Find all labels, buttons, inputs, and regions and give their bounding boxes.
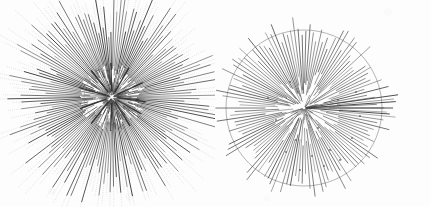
right-node-dot <box>323 165 325 167</box>
right-branch <box>265 32 300 101</box>
right-node-dot <box>329 149 331 151</box>
right-node-dot <box>351 137 353 139</box>
left-tip-leader <box>143 191 146 200</box>
left-tip-leader <box>191 91 215 92</box>
right-branch <box>314 78 365 103</box>
left-tip-leader <box>140 2 147 20</box>
left-tip-leader <box>0 74 9 76</box>
right-branch <box>305 114 323 192</box>
left-tip-leader <box>64 196 71 207</box>
left-tip-leader <box>70 6 75 17</box>
left-tip-leader <box>8 109 21 111</box>
left-tip-leader <box>110 192 111 207</box>
left-tip-leader <box>17 92 45 94</box>
left-tip-leader <box>11 163 26 175</box>
left-tip-leader <box>0 135 10 141</box>
panel-right-radial-tree[interactable] <box>215 0 431 207</box>
left-tip-leader <box>46 187 53 197</box>
left-tip-leader <box>42 148 62 169</box>
left-radial-tree-svg[interactable] <box>0 0 215 207</box>
right-hub-spur <box>304 109 305 120</box>
right-radial-tree-svg[interactable] <box>215 0 431 207</box>
panel-left-radial-tree[interactable] <box>0 0 215 207</box>
left-tip-leader <box>176 40 187 48</box>
right-node-dot <box>275 119 277 121</box>
right-branch <box>302 146 303 184</box>
right-branch <box>238 115 285 132</box>
left-tip-leader <box>126 155 131 175</box>
right-branch <box>308 115 351 181</box>
left-branch <box>22 82 82 92</box>
left-tip-leader <box>100 5 103 27</box>
left-tip-leader <box>9 83 31 86</box>
left-tip-leader <box>7 28 31 44</box>
left-tip-leader <box>31 63 57 74</box>
right-branch <box>238 101 275 105</box>
left-tip-leader <box>106 173 107 194</box>
left-tip-leader <box>82 5 85 13</box>
left-tip-leader <box>41 136 52 143</box>
left-tip-leader <box>131 164 134 174</box>
left-tip-leader <box>153 47 160 54</box>
right-branch <box>329 80 382 99</box>
left-tip-leader <box>49 1 57 13</box>
left-tip-leader <box>53 183 64 204</box>
left-tip-leader <box>189 50 206 58</box>
left-tip-leader <box>127 187 130 205</box>
left-tip-leader <box>165 186 173 200</box>
left-tip-leader <box>174 28 196 46</box>
left-tip-leader <box>92 14 94 23</box>
left-tip-leader <box>188 129 203 135</box>
left-branch <box>131 118 179 171</box>
left-tip-leader <box>85 3 88 15</box>
left-tip-leader <box>171 112 179 114</box>
left-tip-leader <box>36 18 49 31</box>
left-tip-leader <box>171 12 188 31</box>
left-tip-leader <box>170 0 182 8</box>
left-tip-leader <box>196 87 215 89</box>
left-tip-leader <box>4 42 21 51</box>
left-tip-leader <box>172 130 185 137</box>
left-tip-leader <box>116 177 117 193</box>
right-branch <box>338 121 367 132</box>
right-branch <box>229 89 278 101</box>
left-tip-leader <box>25 174 42 193</box>
left-tip-leader <box>0 127 20 135</box>
left-tip-leader <box>153 7 157 15</box>
left-tip-leader <box>33 1 51 23</box>
left-tip-leader <box>74 4 78 15</box>
left-tip-leader <box>15 10 32 25</box>
left-tip-leader <box>137 0 141 12</box>
left-branch <box>112 124 113 187</box>
left-tip-leader <box>27 153 49 173</box>
left-branch <box>21 95 80 96</box>
left-tip-leader <box>199 150 215 165</box>
left-tip-leader <box>28 46 41 54</box>
left-tip-leader <box>0 31 17 44</box>
left-tip-leader <box>157 141 177 160</box>
left-tip-leader <box>23 119 33 122</box>
left-branch <box>53 114 101 187</box>
left-branch <box>114 12 117 66</box>
right-node-dot <box>267 97 269 99</box>
left-tip-leader <box>101 0 104 7</box>
left-tip-leader <box>58 7 73 31</box>
left-branch <box>119 9 134 69</box>
left-tip-leader <box>126 20 129 32</box>
right-branch <box>306 141 310 189</box>
right-node-dot <box>359 115 361 117</box>
left-tip-leader <box>182 160 204 179</box>
left-tip-leader <box>58 196 66 207</box>
right-node-dot <box>337 99 339 101</box>
left-tip-leader <box>183 49 192 54</box>
left-tip-leader <box>165 152 184 172</box>
left-tip-leader <box>176 2 185 14</box>
right-node-dot <box>355 91 357 93</box>
left-tip-leader <box>172 29 182 39</box>
left-tip-leader <box>25 30 38 40</box>
left-tip-leader <box>102 184 104 204</box>
left-tip-leader <box>184 101 201 102</box>
left-tip-leader <box>93 5 99 33</box>
left-tip-leader <box>133 196 135 206</box>
left-tip-leader <box>117 0 118 12</box>
